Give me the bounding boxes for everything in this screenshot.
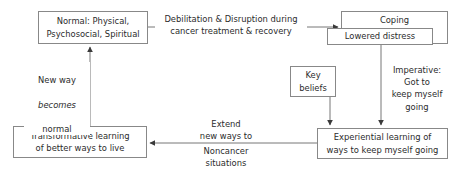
- edge-label-new-way-becomes-normal: New way becomes normal: [24, 62, 90, 135]
- node-lowered-distress[interactable]: Lowered distress: [327, 28, 433, 45]
- node-key-beliefs-label: Key beliefs: [296, 69, 330, 93]
- node-coping-label: Coping: [377, 14, 412, 26]
- edge-label-new-way-line3: normal: [42, 124, 71, 134]
- edge-label-noncancer-situations: Noncancer situations: [185, 145, 267, 169]
- edge-label-new-way-line2: becomes: [38, 100, 76, 110]
- node-experiential-learning-label: Experiential learning of ways to keep my…: [324, 131, 442, 155]
- node-experiential-learning[interactable]: Experiential learning of ways to keep my…: [317, 128, 448, 159]
- edge-label-new-way-line1: New way: [38, 75, 76, 85]
- node-normal-state[interactable]: Normal: Physical, Psychosocial, Spiritua…: [38, 11, 148, 44]
- node-lowered-distress-label: Lowered distress: [342, 30, 418, 42]
- edge-label-imperative: Imperative: Got to keep myself going: [385, 64, 449, 113]
- node-key-beliefs[interactable]: Key beliefs: [290, 66, 336, 97]
- node-normal-label: Normal: Physical, Psychosocial, Spiritua…: [43, 15, 142, 39]
- edge-label-extend-new-ways: Extend new ways to: [185, 118, 267, 142]
- edge-label-debilitation: Debilitation & Disruption during cancer …: [155, 13, 307, 37]
- diagram-canvas: Normal: Physical, Psychosocial, Spiritua…: [0, 0, 458, 181]
